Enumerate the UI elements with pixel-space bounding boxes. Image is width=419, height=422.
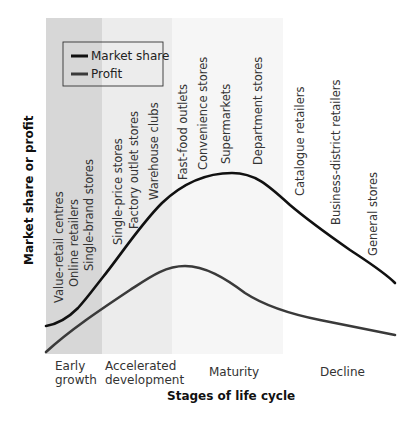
stage-accel-line2: development [105, 373, 184, 387]
legend-label-profit: Profit [91, 67, 123, 81]
stage-accel-line1: Accelerated [105, 359, 176, 373]
label-single-price-stores: Single-price stores [111, 138, 125, 245]
y-axis-title: Market share or profit [22, 115, 36, 265]
label-single-brand-stores: Single-brand stores [82, 159, 96, 271]
stage-early-line1: Early [55, 359, 85, 373]
label-business-district-retailers: Business-district retailers [329, 79, 343, 225]
label-warehouse-clubs: Warehouse clubs [147, 102, 161, 200]
label-catalogue-retailers: Catalogue retailers [293, 87, 307, 196]
label-supermarkets: Supermarkets [219, 84, 233, 164]
label-factory-outlet-stores: Factory outlet stores [127, 111, 141, 229]
x-axis-title: Stages of life cycle [167, 389, 295, 403]
label-fast-food-outlets: Fast-food outlets [176, 84, 190, 180]
stage-maturity: Maturity [209, 365, 259, 379]
stage-decline: Decline [320, 365, 365, 379]
retail-life-cycle-chart: Market share Profit Value-retail centres… [0, 0, 419, 422]
label-online-retailers: Online retailers [67, 199, 81, 287]
label-value-retail-centres: Value-retail centres [52, 191, 66, 303]
label-general-stores: General stores [366, 172, 380, 256]
label-department-stores: Department stores [251, 57, 265, 165]
stage-early-line2: growth [55, 373, 97, 387]
stage-labels: Early growth Accelerated development Mat… [55, 359, 365, 387]
label-convenience-stores: Convenience stores [196, 57, 210, 170]
legend-label-market-share: Market share [91, 49, 169, 63]
